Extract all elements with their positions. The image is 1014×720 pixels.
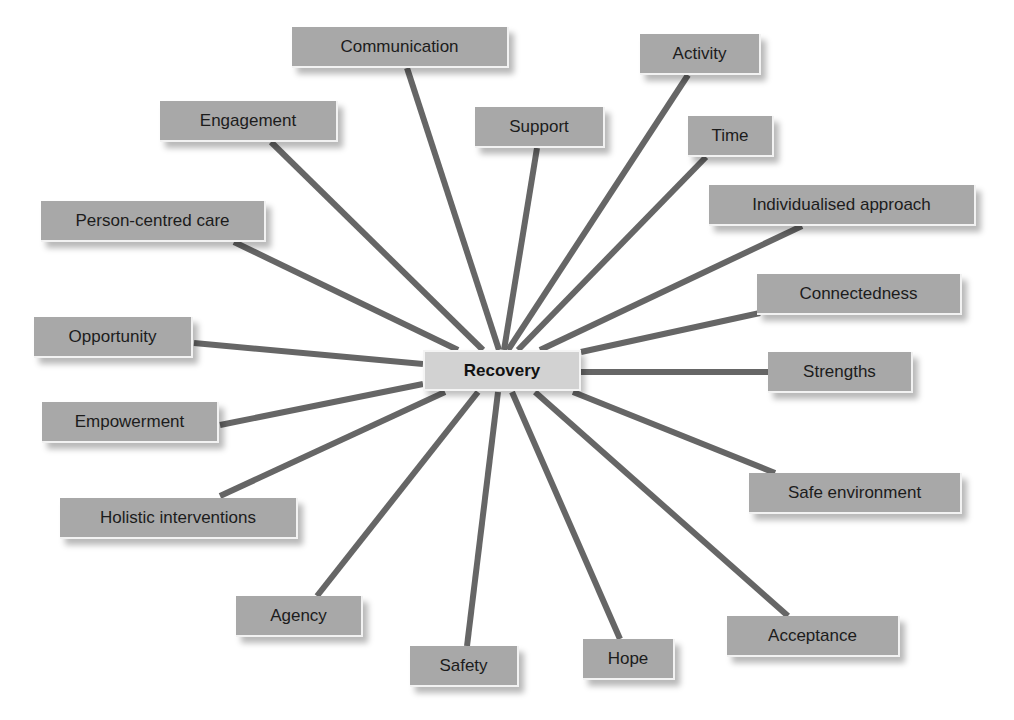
node-label: Hope: [608, 649, 649, 669]
connector-engagement: [271, 142, 483, 350]
center-label: Recovery: [464, 361, 541, 381]
connector-safety: [467, 392, 498, 646]
connector-agency: [317, 392, 478, 596]
node-support: Support: [475, 107, 605, 148]
node-label: Communication: [340, 37, 458, 57]
node-label: Support: [509, 117, 569, 137]
node-safe-environment: Safe environment: [749, 473, 962, 514]
node-holistic-interventions: Holistic interventions: [60, 498, 298, 539]
connector-hope: [512, 392, 620, 639]
node-label: Holistic interventions: [100, 508, 256, 528]
node-label: Safe environment: [788, 483, 921, 503]
node-label: Agency: [270, 606, 327, 626]
node-person-centred-care: Person-centred care: [41, 201, 266, 242]
node-empowerment: Empowerment: [42, 402, 219, 443]
center-node-recovery: Recovery: [423, 350, 581, 391]
node-label: Opportunity: [69, 327, 157, 347]
node-activity: Activity: [640, 34, 761, 75]
node-individualised-approach: Individualised approach: [709, 185, 976, 226]
node-label: Activity: [673, 44, 727, 64]
node-connectedness: Connectedness: [757, 274, 962, 315]
node-label: Person-centred care: [75, 211, 229, 231]
connector-safe-environment: [573, 392, 775, 473]
connector-opportunity: [194, 343, 423, 364]
node-hope: Hope: [583, 639, 675, 680]
node-engagement: Engagement: [160, 101, 338, 142]
node-label: Time: [711, 126, 748, 146]
recovery-concept-map: Communication Activity Engagement Suppor…: [0, 0, 1014, 720]
node-label: Empowerment: [75, 412, 185, 432]
node-label: Connectedness: [799, 284, 917, 304]
node-label: Safety: [439, 656, 487, 676]
node-label: Engagement: [200, 111, 296, 131]
connector-support: [504, 148, 537, 350]
node-label: Acceptance: [768, 626, 857, 646]
node-safety: Safety: [410, 646, 519, 687]
node-label: Strengths: [803, 362, 876, 382]
node-strengths: Strengths: [768, 352, 913, 393]
node-communication: Communication: [292, 27, 509, 68]
node-acceptance: Acceptance: [727, 616, 900, 657]
node-agency: Agency: [236, 596, 363, 637]
node-label: Individualised approach: [752, 195, 931, 215]
node-opportunity: Opportunity: [34, 317, 193, 358]
node-time: Time: [688, 116, 774, 157]
